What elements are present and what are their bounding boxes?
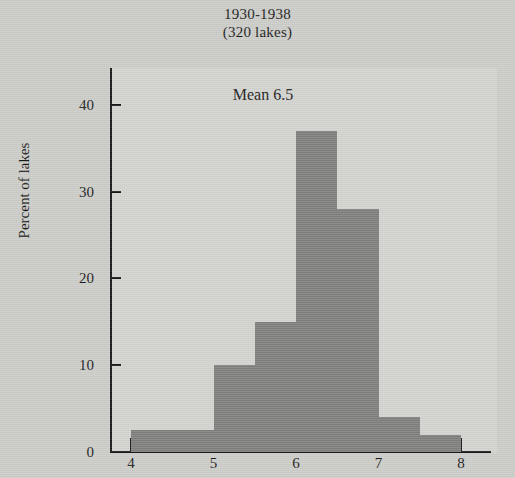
y-tick-mark xyxy=(112,364,121,366)
histogram-bar xyxy=(131,430,172,452)
y-tick-mark xyxy=(112,191,121,193)
y-tick-mark xyxy=(112,104,121,106)
y-tick-mark xyxy=(112,451,121,453)
y-tick-label: 20 xyxy=(79,270,94,287)
histogram-bar xyxy=(337,209,378,452)
title-line-sample-size: (320 lakes) xyxy=(0,24,515,42)
histogram-bar xyxy=(255,322,296,452)
histogram-bar xyxy=(379,417,420,452)
histogram-bar xyxy=(214,365,255,452)
y-tick-label: 10 xyxy=(79,357,94,374)
x-tick-label: 8 xyxy=(457,455,465,472)
y-tick-label: 0 xyxy=(87,444,95,461)
histogram-figure: 1930-1938 (320 lakes) 010203040 45678 Pe… xyxy=(0,0,515,478)
y-axis-title: Percent of lakes xyxy=(16,71,33,311)
title-line-period: 1930-1938 xyxy=(0,6,515,24)
y-tick-label: 30 xyxy=(79,183,94,200)
mean-annotation: Mean 6.5 xyxy=(233,86,293,104)
x-tick-label: 5 xyxy=(210,455,218,472)
x-tick-label: 7 xyxy=(375,455,383,472)
histogram-bar xyxy=(296,131,337,452)
histogram-bar xyxy=(172,430,213,452)
histogram-bar xyxy=(420,435,461,452)
y-axis-line xyxy=(110,68,112,453)
x-tick-label: 4 xyxy=(127,455,135,472)
y-tick-mark xyxy=(112,277,121,279)
figure-title: 1930-1938 (320 lakes) xyxy=(0,6,515,41)
x-tick-label: 6 xyxy=(292,455,300,472)
y-tick-label: 40 xyxy=(79,96,94,113)
